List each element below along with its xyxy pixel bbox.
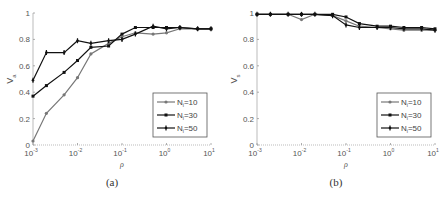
data-point — [420, 28, 423, 31]
x-tick-label: 10-1 — [113, 147, 127, 158]
y-tick-label: 0.2 — [243, 115, 255, 124]
x-axis-label: ρ — [343, 160, 348, 169]
x-tick-label: 10-2 — [69, 147, 83, 158]
data-point — [90, 42, 93, 45]
x-tick-label: 101 — [427, 147, 439, 158]
data-point — [32, 95, 35, 98]
x-axis-label: ρ — [119, 160, 124, 169]
caption-a: (a) — [0, 176, 224, 188]
data-point — [434, 29, 437, 32]
data-point — [152, 33, 155, 36]
data-point — [314, 13, 317, 16]
x-tick-label: 100 — [383, 147, 395, 158]
data-point — [376, 26, 379, 29]
data-point — [152, 25, 155, 28]
data-point — [165, 28, 168, 31]
data-point — [45, 84, 48, 87]
legend-entry: Ni=30 — [177, 111, 198, 121]
caption-b: (b) — [224, 176, 448, 188]
y-tick-label: 0.8 — [243, 35, 255, 44]
data-point — [287, 13, 290, 16]
data-point — [45, 51, 48, 54]
data-point — [345, 15, 348, 18]
data-point — [134, 26, 137, 29]
data-point — [63, 51, 66, 54]
y-tick-label: 0.8 — [19, 35, 31, 44]
data-point — [179, 26, 182, 29]
x-tick-label: 10-2 — [293, 147, 307, 158]
x-tick-label: 100 — [159, 147, 171, 158]
legend-entry: Ni=50 — [177, 124, 198, 134]
x-tick-label: 101 — [203, 147, 215, 158]
y-tick-label: 0.6 — [19, 62, 31, 71]
data-point — [89, 52, 92, 55]
data-point — [165, 31, 168, 34]
legend-entry: Ni=10 — [177, 98, 198, 108]
data-point — [134, 33, 137, 36]
data-point — [89, 46, 92, 49]
data-point — [63, 93, 66, 96]
data-point — [210, 28, 213, 31]
data-point — [331, 14, 334, 17]
data-point — [63, 71, 66, 74]
y-tick-label: 0.4 — [19, 88, 31, 97]
y-axis-label: Va — [5, 74, 17, 84]
data-point — [300, 13, 303, 16]
data-point — [121, 38, 124, 41]
x-tick-label: 10-3 — [248, 147, 262, 158]
data-point — [196, 28, 199, 31]
data-point — [107, 39, 110, 42]
legend-entry: Ni=10 — [401, 98, 422, 108]
x-tick-label: 10-3 — [24, 147, 38, 158]
y-axis-label: Vs — [229, 74, 241, 83]
data-point — [76, 59, 79, 62]
data-point — [107, 45, 110, 48]
y-tick-label: 0.4 — [243, 88, 255, 97]
x-tick-label: 10-1 — [337, 147, 351, 158]
y-tick-label: 1 — [26, 9, 31, 18]
data-point — [389, 26, 392, 29]
data-point — [121, 33, 124, 36]
data-point — [344, 19, 347, 22]
data-point — [76, 76, 79, 79]
data-point — [345, 24, 348, 27]
data-point — [358, 22, 361, 25]
legend-entry: Ni=50 — [401, 124, 422, 134]
data-point — [358, 26, 361, 29]
y-tick-label: 0.2 — [19, 115, 31, 124]
data-point — [300, 18, 303, 21]
data-point — [76, 39, 79, 42]
data-point — [256, 13, 259, 16]
chart-panel-b: 00.20.40.60.8110-310-210-1100101ρVsNi=10… — [224, 0, 448, 208]
data-point — [32, 79, 35, 82]
legend-entry: Ni=30 — [401, 111, 422, 121]
data-point — [45, 112, 48, 115]
y-tick-label: 0.6 — [243, 62, 255, 71]
data-point — [403, 28, 406, 31]
data-point — [269, 13, 272, 16]
y-tick-label: 1 — [250, 9, 255, 18]
chart-panel-a: 00.20.40.60.8110-310-210-1100101ρVaNi=10… — [0, 0, 224, 208]
data-point — [31, 139, 34, 142]
